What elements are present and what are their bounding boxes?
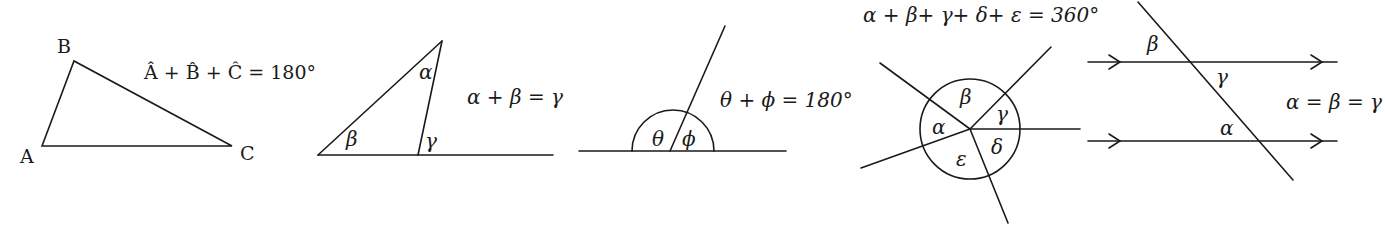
angle-label-epsilon: ε	[956, 147, 967, 171]
exterior-angle-diagram: α β γ α + β = γ	[318, 41, 563, 155]
vertex-label-a: A	[19, 145, 34, 167]
exterior-angle-equation: α + β = γ	[467, 85, 563, 109]
transversal-line	[1138, 2, 1293, 180]
parallel-lines-equation: α = β = γ	[1286, 90, 1382, 114]
geometry-angle-rules-diagram: A B C Â + B̂ + Ĉ = 180° α β γ α + β = γ …	[0, 0, 1385, 231]
vertex-label-c: C	[240, 142, 255, 164]
triangle-sum-equation: Â + B̂ + Ĉ = 180°	[143, 61, 316, 83]
ray	[670, 26, 725, 151]
ray-upper-right	[970, 47, 1051, 129]
angle-label-gamma: γ	[996, 102, 1008, 126]
ray-lower-left	[861, 129, 970, 168]
angle-label-alpha: α	[932, 115, 946, 139]
angle-label-gamma: γ	[1216, 65, 1228, 89]
angles-at-point-diagram: α + β+ γ+ δ+ ε = 360° α β γ δ ε	[861, 3, 1099, 223]
angle-label-beta: β	[345, 127, 358, 151]
angle-label-alpha: α	[419, 60, 433, 84]
vertex-label-b: B	[57, 35, 71, 57]
triangle-sum-diagram: A B C Â + B̂ + Ĉ = 180°	[19, 35, 316, 167]
angle-label-delta: δ	[991, 135, 1003, 159]
angle-label-theta: θ	[652, 127, 664, 151]
angle-label-gamma: γ	[425, 129, 437, 153]
angle-label-beta: β	[959, 85, 972, 109]
straight-line-diagram: θ ϕ θ + ϕ = 180°	[579, 26, 853, 151]
straight-line-equation: θ + ϕ = 180°	[720, 88, 853, 112]
parallel-lines-diagram: β γ α α = β = γ	[1088, 2, 1382, 180]
ray-upper-left	[880, 63, 970, 129]
angle-label-alpha: α	[1220, 116, 1234, 140]
angle-label-beta: β	[1146, 32, 1159, 56]
triangle-side-left	[318, 41, 442, 155]
angle-label-phi: ϕ	[682, 127, 696, 151]
angles-at-point-equation: α + β+ γ+ δ+ ε = 360°	[863, 3, 1099, 27]
